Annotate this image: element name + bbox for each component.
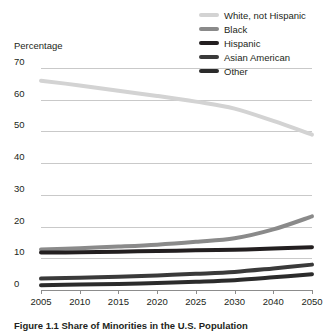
x-axis-tick-mark [312, 290, 313, 294]
y-axis-tick-label: 20 [14, 216, 25, 226]
x-axis-tick-label: 2015 [108, 296, 129, 307]
x-axis-tick-labels: 20052010201520202025203020402050 [0, 296, 323, 310]
y-axis-tick-label: 30 [14, 184, 25, 194]
legend-item-label: Black [224, 24, 247, 35]
x-axis-tick-label: 2010 [69, 296, 90, 307]
y-axis-title: Percentage [14, 40, 63, 51]
legend-item-black: Black [199, 22, 323, 36]
legend-swatch-icon [199, 41, 219, 45]
legend-swatch-icon [199, 55, 219, 59]
data-series-layer [41, 68, 312, 290]
x-axis-tick-label: 2005 [30, 296, 51, 307]
x-axis-tick-mark [273, 290, 274, 294]
x-axis-tick-mark [80, 290, 81, 294]
x-axis-tick-mark [157, 290, 158, 294]
legend-swatch-icon [199, 27, 219, 31]
legend-item-label: Asian American [224, 52, 290, 63]
y-axis-tick-labels: 010203040506070 [14, 68, 42, 290]
x-axis-tick-mark [118, 290, 119, 294]
x-axis-tick-label: 2025 [185, 296, 206, 307]
y-axis-tick-label: 0 [14, 279, 19, 289]
series-line [41, 81, 312, 135]
legend-item-label: Hispanic [224, 38, 260, 49]
legend-item-asian-american: Asian American [199, 50, 323, 64]
figure-container: White, not Hispanic Black Hispanic Asian… [0, 0, 323, 332]
y-axis-tick-label: 40 [14, 152, 25, 162]
series-line [41, 216, 312, 249]
x-axis-tick-label: 2050 [301, 296, 322, 307]
x-axis-tick-mark [41, 290, 42, 294]
y-axis-tick-label: 60 [14, 89, 25, 99]
x-axis-tick-label: 2020 [147, 296, 168, 307]
x-axis-tick-mark [196, 290, 197, 294]
legend-item-white-not-hispanic: White, not Hispanic [199, 8, 323, 22]
plot-area [41, 68, 312, 290]
legend-swatch-icon [199, 13, 219, 17]
figure-caption: Figure 1.1 Share of Minorities in the U.… [14, 320, 323, 332]
legend-item-label: White, not Hispanic [224, 10, 306, 21]
x-axis-tick-mark [235, 290, 236, 294]
legend-item-hispanic: Hispanic [199, 36, 323, 50]
y-axis-tick-label: 70 [14, 57, 25, 67]
y-axis-tick-label: 10 [14, 247, 25, 257]
x-axis-tick-label: 2040 [263, 296, 284, 307]
y-axis-tick-label: 50 [14, 120, 25, 130]
x-axis-tick-label: 2030 [224, 296, 245, 307]
x-axis-line [41, 290, 312, 291]
